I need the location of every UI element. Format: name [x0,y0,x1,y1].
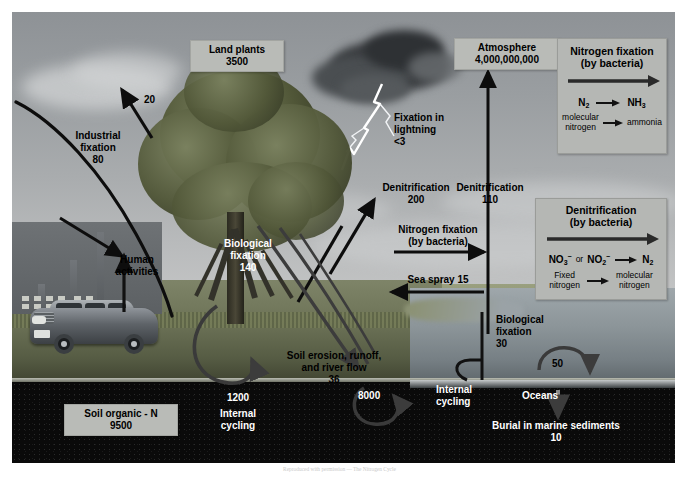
pool-soil-organic-n-value: 9500 [72,420,170,432]
label-industrial-to-atmosphere-value: 20 [144,94,155,106]
label-burial-marine-sediments: Burial in marine sediments 10 [458,420,654,444]
label-soil-internal-cycling: 1200 Internal cycling [208,392,268,432]
soil-erosion-line1: Soil erosion, runoff, [268,350,400,362]
pool-atmosphere: Atmosphere 4,000,000,000 [454,38,560,70]
industrial-fixation-value: 80 [52,154,144,166]
denit-panel-big-arrow [545,233,661,245]
label-industrial-fixation: Industrial fixation 80 [52,130,144,166]
denit-product-name: molecular nitrogen [616,271,653,290]
car-wheel [124,334,144,354]
ocean-cycling-line2: cycling [436,396,498,408]
denit-small-arrow-icon-2 [586,277,610,285]
label-soil-erosion: Soil erosion, runoff, and river flow 36 [268,350,400,386]
diagram-page: Land plants 3500 Atmosphere 4,000,000,00… [0,0,679,480]
label-biological-fixation-ocean: Biological fixation 30 [496,314,570,350]
denit-reactant-name: Fixed nitrogen [549,271,580,290]
label-oceans: Oceans [522,390,558,402]
denit-panel-title-line1: Denitrification [540,204,662,216]
car-headlight [32,316,46,324]
nfix-reactant-name: molecular nitrogen [562,113,599,132]
bio-fixation-ocean-line2: fixation [496,326,570,338]
denit-small-arrow-icon [614,256,638,264]
factory-window [22,304,29,309]
soil-cycling-line1: Internal [208,408,268,420]
pool-land-plants: Land plants 3500 [190,40,284,72]
label-ocean-pool-value: 8000 [358,390,380,402]
label-ocean-internal-cycling-value: 50 [552,358,563,370]
burial-text: Burial in marine sediments [458,420,654,432]
nfix-reactant-formula: N2 [578,97,589,109]
nfix-panel-title-line2: (by bacteria) [562,57,662,69]
denit-panel-title-line2: (by bacteria) [540,216,662,228]
denit-reactant-a: NO3− [549,253,572,266]
fixation-lightning-value: <3 [394,136,478,148]
pool-land-plants-value: 3500 [198,56,276,68]
fixation-lightning-line1: Fixation in [394,112,478,124]
panel-denitrification: Denitrification (by bacteria) NO3− or NO… [535,198,667,300]
factory-window [22,296,29,301]
nitrogen-cycle-scene: Land plants 3500 Atmosphere 4,000,000,00… [12,12,675,463]
label-denitrification-ocean: Denitrification 110 [444,182,536,206]
bio-fixation-ocean-value: 30 [496,338,570,350]
tree-canopy [248,162,344,240]
industrial-fixation-line1: Industrial [52,130,144,142]
human-activities-line1: Human [98,254,176,266]
label-ocean-internal-cycling: Internal cycling [436,384,498,408]
nfix-flow-line2: (by bacteria) [382,236,494,248]
nfix-small-arrow-icon-2 [602,119,624,127]
denit-conjunction: or [576,255,584,265]
nfix-panel-title-line1: Nitrogen fixation [562,45,662,57]
label-biological-fixation-land: Biological fixation 140 [208,238,288,274]
denit-reactant-b: NO2− [587,253,610,266]
pool-atmosphere-value: 4,000,000,000 [462,54,552,66]
soil-cycling-value: 1200 [208,392,268,404]
bio-fixation-land-line2: fixation [208,250,288,262]
panel-nitrogen-fixation: Nitrogen fixation (by bacteria) N2 NH3 m… [557,38,667,154]
denitrification-ocean-value: 110 [444,194,536,206]
nfix-product-name: ammonia [627,118,662,128]
nfix-panel-big-arrow [566,75,662,87]
pool-atmosphere-label: Atmosphere [462,42,552,54]
car-wheel [54,334,74,354]
bio-fixation-ocean-line1: Biological [496,314,570,326]
denit-product-formula: N2 [642,254,653,266]
soil-erosion-line2: and river flow [268,362,400,374]
denitrification-ocean-name: Denitrification [444,182,536,194]
pool-land-plants-label: Land plants [198,44,276,56]
label-nitrogen-fixation-flow: Nitrogen fixation (by bacteria) [382,224,494,248]
label-fixation-lightning: Fixation in lightning <3 [394,112,478,148]
human-activities-line2: activities [98,266,176,278]
nfix-product-formula: NH3 [627,97,645,109]
label-human-activities: Human activities [98,254,176,278]
label-sea-spray: Sea spray 15 [386,274,490,286]
pool-soil-organic-n: Soil organic - N 9500 [64,404,178,436]
factory-window [34,296,41,301]
ocean-cycling-line1: Internal [436,384,498,396]
bio-fixation-land-line1: Biological [208,238,288,250]
burial-value: 10 [458,432,654,444]
cloud [72,52,182,90]
fixation-lightning-line2: lightning [394,124,478,136]
car-license-plate [34,330,50,338]
nfix-flow-line1: Nitrogen fixation [382,224,494,236]
industrial-fixation-line2: fixation [52,142,144,154]
soil-cycling-line2: cycling [208,420,268,432]
factory-window [46,296,53,301]
figure-credit-caption: Reproduced with permission — The Nitroge… [12,466,667,473]
bio-fixation-land-value: 140 [208,262,288,274]
pool-soil-organic-n-label: Soil organic - N [72,408,170,420]
nfix-small-arrow-icon [595,99,621,107]
soil-erosion-value: 36 [268,374,400,386]
